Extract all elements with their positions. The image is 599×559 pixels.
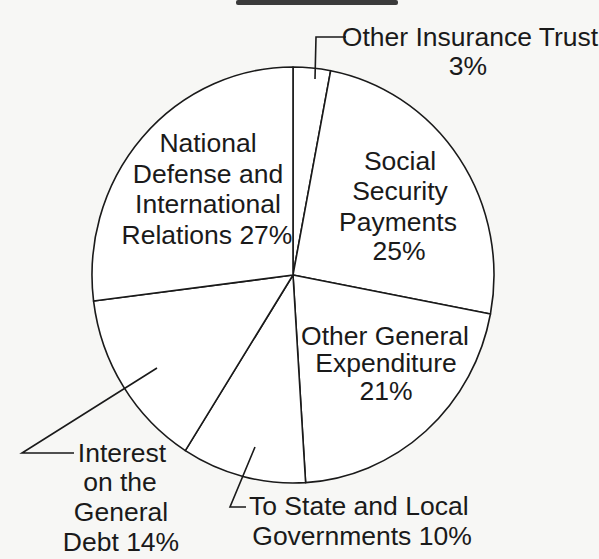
svg-text:Governments 10%: Governments 10%: [252, 521, 471, 551]
label-interest-general-debt: Interest on the General Debt 14%: [63, 438, 179, 557]
svg-text:Debt 14%: Debt 14%: [63, 527, 179, 557]
svg-text:3%: 3%: [449, 51, 487, 81]
svg-text:National: National: [159, 128, 256, 158]
svg-text:General: General: [74, 497, 168, 527]
svg-text:21%: 21%: [359, 376, 412, 406]
svg-text:Defense and: Defense and: [133, 159, 283, 189]
svg-text:Expenditure: Expenditure: [315, 348, 456, 378]
svg-text:Other Insurance Trust: Other Insurance Trust: [342, 22, 599, 52]
svg-text:To State and Local: To State and Local: [249, 491, 469, 521]
pie-slices: [92, 67, 494, 483]
svg-text:Interest: Interest: [78, 438, 167, 468]
label-other-insurance-trust: Other Insurance Trust 3%: [342, 22, 599, 81]
svg-text:Relations 27%: Relations 27%: [122, 220, 293, 250]
svg-text:Other General: Other General: [301, 321, 469, 351]
pie-chart: Other Insurance Trust 3% Social Security…: [0, 0, 599, 559]
svg-text:25%: 25%: [372, 236, 425, 266]
label-to-state-and-local: To State and Local Governments 10%: [249, 491, 472, 551]
svg-text:on the: on the: [83, 467, 157, 497]
chart-title-cropped: [236, 0, 398, 5]
svg-text:Security: Security: [352, 176, 448, 206]
svg-text:Social: Social: [364, 146, 436, 176]
svg-text:Payments: Payments: [339, 207, 457, 237]
svg-text:International: International: [135, 189, 281, 219]
